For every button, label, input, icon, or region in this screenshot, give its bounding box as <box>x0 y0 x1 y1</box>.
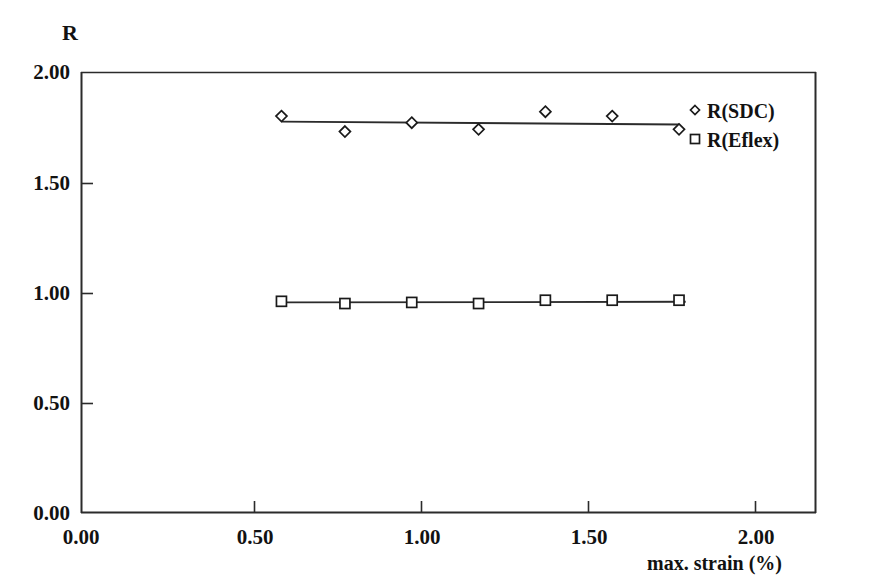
legend-marker-square <box>691 135 700 144</box>
plot-canvas <box>0 0 882 587</box>
chart-figure: R 2.00 1.50 1.00 0.50 0.00 0.00 0.50 1.0… <box>0 0 882 587</box>
data-point <box>540 295 550 305</box>
data-point <box>340 299 350 309</box>
data-point <box>276 111 287 122</box>
data-point <box>406 117 417 128</box>
legend-markers <box>691 106 700 144</box>
data-point <box>674 124 685 135</box>
data-point <box>407 297 417 307</box>
data-point <box>674 295 684 305</box>
data-point <box>540 106 551 117</box>
trendline-1 <box>281 122 679 125</box>
axis-ticks <box>81 184 756 514</box>
data-point <box>474 299 484 309</box>
data-point <box>339 126 350 137</box>
data-point <box>473 124 484 135</box>
axes-frame <box>81 72 816 513</box>
series-layer <box>276 106 686 308</box>
data-point <box>607 295 617 305</box>
legend-marker-diamond <box>691 106 700 115</box>
data-point <box>607 111 618 122</box>
data-point <box>276 296 286 306</box>
